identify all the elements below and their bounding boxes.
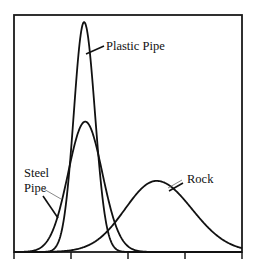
plastic-pipe-label: Plastic Pipe xyxy=(106,39,165,53)
curves xyxy=(14,22,242,252)
steel-pipe-curve xyxy=(14,122,242,252)
steel-pipe-label-line1: Steel xyxy=(24,166,50,180)
plastic-pipe-curve xyxy=(14,22,242,252)
steel-pipe-label-line2: Pipe xyxy=(24,181,47,195)
distribution-chart: Plastic Pipe Steel Pipe Rock xyxy=(0,0,256,273)
steel-pipe-leader-bold xyxy=(43,196,58,218)
x-axis-ticks xyxy=(14,252,242,259)
rock-label: Rock xyxy=(187,172,214,186)
